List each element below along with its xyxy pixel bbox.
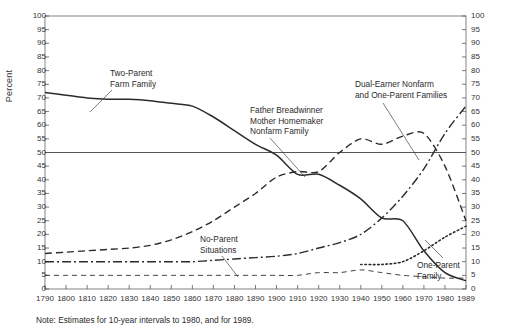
x-axis-tick: 1930 xyxy=(331,295,349,303)
y-axis-tick-right: 20 xyxy=(471,230,495,238)
x-axis-tick: 1970 xyxy=(415,295,433,303)
annotation-line: Dual-Earner Nonfarm xyxy=(355,79,447,90)
y-axis-tick-right: 75 xyxy=(471,80,495,88)
chart-note: Note: Estimates for 10-year intervals to… xyxy=(36,315,254,325)
x-axis-tick: 1870 xyxy=(204,295,222,303)
annotation-leader-line xyxy=(270,138,305,177)
x-axis-tick: 1900 xyxy=(268,295,286,303)
x-axis-tick: 1820 xyxy=(99,295,117,303)
y-axis-tick-left: 95 xyxy=(22,26,46,34)
x-axis-tick: 1800 xyxy=(57,295,75,303)
y-axis-tick-right: 30 xyxy=(471,203,495,211)
x-axis-tick: 1850 xyxy=(162,295,180,303)
y-axis-tick-left: 55 xyxy=(22,135,46,143)
x-axis-tick: 1790 xyxy=(36,295,54,303)
x-axis-tick: 1880 xyxy=(226,295,244,303)
annotation-line: No-Parent xyxy=(200,234,238,245)
y-axis-tick-right: 80 xyxy=(471,67,495,75)
y-axis-tick-left: 75 xyxy=(22,80,46,88)
y-axis-tick-right: 25 xyxy=(471,217,495,225)
x-axis-tick: 1960 xyxy=(394,295,412,303)
y-axis-tick-left: 30 xyxy=(22,203,46,211)
series-line xyxy=(45,270,466,278)
y-axis-tick-left: 15 xyxy=(22,244,46,252)
y-axis-tick-right: 95 xyxy=(471,26,495,34)
x-axis-tick: 1940 xyxy=(352,295,370,303)
annotation-line: Two-Parent xyxy=(110,68,156,79)
annotation-father-breadwinner: Father Breadwinner Mother Homemaker Nonf… xyxy=(250,105,323,137)
annotation-leader-line xyxy=(383,103,419,160)
x-axis-tick: 1840 xyxy=(141,295,159,303)
annotation-two-parent-farm-family: Two-Parent Farm Family xyxy=(110,68,156,89)
annotation-leader-line xyxy=(90,90,112,112)
x-axis-tick: 1910 xyxy=(289,295,307,303)
y-axis-tick-right: 70 xyxy=(471,94,495,102)
y-axis-tick-left: 0 xyxy=(22,285,46,293)
y-axis-tick-right: 85 xyxy=(471,53,495,61)
y-axis-tick-right: 65 xyxy=(471,108,495,116)
annotation-line: Situations xyxy=(200,245,238,256)
y-axis-tick-left: 50 xyxy=(22,149,46,157)
y-axis-tick-right: 10 xyxy=(471,258,495,266)
x-axis-tick: 1810 xyxy=(78,295,96,303)
y-axis-tick-right: 90 xyxy=(471,39,495,47)
annotation-no-parent-situations: No-Parent Situations xyxy=(200,234,238,255)
y-axis-tick-right: 50 xyxy=(471,149,495,157)
annotation-line: Nonfarm Family xyxy=(250,126,323,137)
y-axis-tick-right: 60 xyxy=(471,121,495,129)
chart-plot-area xyxy=(0,0,509,332)
y-axis-tick-right: 40 xyxy=(471,176,495,184)
annotation-line: Father Breadwinner xyxy=(250,105,323,116)
x-axis-tick: 1920 xyxy=(310,295,328,303)
y-axis-tick-right: 15 xyxy=(471,244,495,252)
y-axis-tick-left: 10 xyxy=(22,258,46,266)
y-axis-tick-left: 60 xyxy=(22,121,46,129)
series-line xyxy=(361,226,466,264)
x-axis-tick: 1830 xyxy=(120,295,138,303)
y-axis-tick-left: 5 xyxy=(22,271,46,279)
annotation-line: Farm Family xyxy=(110,79,156,90)
x-axis-tick: 1980 xyxy=(436,295,454,303)
y-axis-tick-left: 100 xyxy=(22,12,46,20)
y-axis-tick-left: 70 xyxy=(22,94,46,102)
x-axis-tick: 1860 xyxy=(183,295,201,303)
y-axis-tick-right: 0 xyxy=(471,285,495,293)
y-axis-tick-left: 85 xyxy=(22,53,46,61)
y-axis-tick-right: 45 xyxy=(471,162,495,170)
x-axis-tick: 1950 xyxy=(373,295,391,303)
annotation-dual-earner: Dual-Earner Nonfarm and One-Parent Famil… xyxy=(355,79,447,100)
y-axis-tick-left: 40 xyxy=(22,176,46,184)
y-axis-tick-left: 80 xyxy=(22,67,46,75)
y-axis-tick-left: 25 xyxy=(22,217,46,225)
chart-figure: Percent Two-Parent Farm Family Father Br… xyxy=(0,0,509,332)
y-axis-tick-right: 35 xyxy=(471,189,495,197)
x-axis-tick: 1989 xyxy=(457,295,475,303)
y-axis-tick-right: 100 xyxy=(471,12,495,20)
y-axis-tick-left: 35 xyxy=(22,189,46,197)
y-axis-tick-left: 20 xyxy=(22,230,46,238)
y-axis-tick-left: 90 xyxy=(22,39,46,47)
annotation-one-parent-family: One-Parent Family xyxy=(417,260,460,281)
y-axis-tick-left: 45 xyxy=(22,162,46,170)
series-line xyxy=(45,132,466,254)
annotation-line: and One-Parent Families xyxy=(355,90,447,101)
y-axis-tick-left: 65 xyxy=(22,108,46,116)
annotation-line: Family xyxy=(417,271,460,282)
annotation-line: One-Parent xyxy=(417,260,460,271)
y-axis-tick-right: 5 xyxy=(471,271,495,279)
y-axis-tick-right: 55 xyxy=(471,135,495,143)
annotation-line: Mother Homemaker xyxy=(250,116,323,127)
x-axis-tick: 1890 xyxy=(247,295,265,303)
